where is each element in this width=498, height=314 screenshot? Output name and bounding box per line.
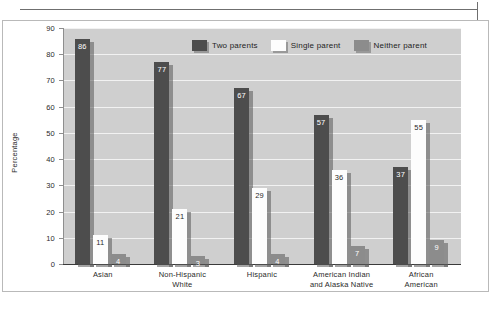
bar-group: 57367	[314, 28, 370, 264]
y-axis-tick	[59, 238, 63, 239]
bar: 7	[350, 246, 365, 264]
chart-figure: Percentage 0102030405060708090 861147721…	[0, 0, 498, 314]
y-axis-line	[63, 28, 64, 264]
bar-fill	[154, 62, 169, 264]
bar-group: 86114	[75, 28, 131, 264]
bar: 77	[154, 62, 169, 264]
bar-value-label: 57	[314, 118, 329, 127]
bar-shadow	[365, 249, 369, 267]
y-axis-tick-label: 60	[33, 102, 55, 111]
legend-swatch	[271, 40, 286, 51]
bar-fill	[314, 115, 329, 264]
y-axis-tick	[59, 28, 63, 29]
y-axis-tick-label: 0	[33, 260, 55, 269]
header-rule-tick	[477, 2, 478, 20]
bar-fill	[332, 170, 347, 264]
legend-swatch	[192, 40, 207, 51]
bar-value-label: 55	[411, 123, 426, 132]
bar-value-label: 7	[350, 249, 365, 258]
y-axis-tick-label: 30	[33, 181, 55, 190]
bar: 4	[270, 254, 285, 264]
legend-label: Neither parent	[374, 41, 428, 50]
bar-shadow	[90, 42, 94, 268]
bar-shadow	[285, 257, 289, 267]
bar-fill	[411, 120, 426, 264]
bar-fill	[75, 39, 90, 265]
bar-value-label: 9	[429, 243, 444, 252]
bar-value-label: 36	[332, 173, 347, 182]
bar-value-label: 77	[154, 65, 169, 74]
legend-item: Neither parent	[354, 40, 428, 51]
y-axis-tick	[59, 107, 63, 108]
bar: 37	[393, 167, 408, 264]
bar-value-label: 21	[172, 212, 187, 221]
bar: 29	[252, 188, 267, 264]
bar-value-label: 86	[75, 42, 90, 51]
legend-label: Single parent	[291, 41, 341, 50]
y-axis-tick	[59, 159, 63, 160]
bar: 36	[332, 170, 347, 264]
bar-shadow	[126, 257, 130, 267]
y-axis-tick-label: 40	[33, 155, 55, 164]
y-axis-tick	[59, 80, 63, 81]
y-axis-title: Percentage	[10, 132, 19, 172]
bar-value-label: 29	[252, 191, 267, 200]
y-axis-tick-label: 10	[33, 233, 55, 242]
bar-value-label: 4	[270, 257, 285, 266]
bar-group: 37559	[393, 28, 449, 264]
y-axis-tick	[59, 185, 63, 186]
y-axis-tick-label: 80	[33, 50, 55, 59]
y-axis-tick	[59, 54, 63, 55]
y-axis-tick-label: 50	[33, 128, 55, 137]
legend-swatch	[354, 40, 369, 51]
bar-fill	[234, 88, 249, 264]
bar-fill	[393, 167, 408, 264]
bar-value-label: 11	[93, 238, 108, 247]
bar: 9	[429, 240, 444, 264]
bar: 11	[93, 235, 108, 264]
y-axis-tick	[59, 133, 63, 134]
bar-value-label: 37	[393, 170, 408, 179]
legend-item: Two parents	[192, 40, 258, 51]
bar-value-label: 67	[234, 91, 249, 100]
header-rule	[20, 9, 478, 10]
y-axis-tick-label: 70	[33, 76, 55, 85]
y-axis-tick-label: 20	[33, 207, 55, 216]
bar: 4	[111, 254, 126, 264]
y-axis-tick	[59, 264, 63, 265]
bar-value-label: 3	[190, 259, 205, 268]
chart-legend: Two parentsSingle parentNeither parent	[192, 40, 427, 51]
legend-swatch-fill	[192, 40, 207, 51]
bar: 57	[314, 115, 329, 264]
x-axis-label-line: White	[127, 280, 237, 290]
x-axis-label-line: African	[366, 270, 476, 280]
legend-label: Two parents	[212, 41, 258, 50]
bar: 67	[234, 88, 249, 264]
legend-swatch-fill	[354, 40, 369, 51]
x-axis-label: AfricanAmerican	[366, 270, 476, 290]
bar: 55	[411, 120, 426, 264]
y-axis-tick	[59, 212, 63, 213]
bar-shadow	[205, 259, 209, 267]
bar-value-label: 4	[111, 257, 126, 266]
bar-shadow	[444, 243, 448, 267]
bar: 86	[75, 39, 90, 265]
legend-swatch-fill	[271, 40, 286, 51]
bar: 21	[172, 209, 187, 264]
legend-item: Single parent	[271, 40, 341, 51]
y-axis-tick-label: 90	[33, 24, 55, 33]
bar: 3	[190, 256, 205, 264]
x-axis-label-line: American	[366, 280, 476, 290]
bar-group: 67294	[234, 28, 290, 264]
bar-group: 77213	[154, 28, 210, 264]
